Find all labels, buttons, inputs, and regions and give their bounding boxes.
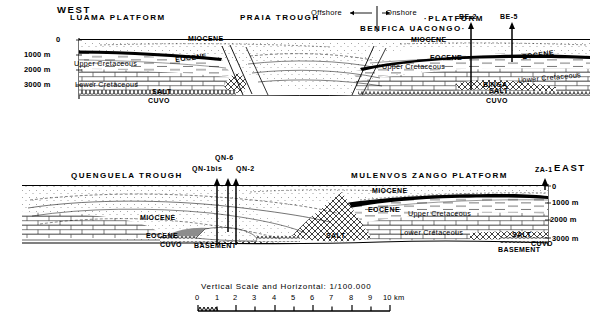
scale-caption: Vertical Scale and Horizontal: 1/100.000 [201,283,371,291]
strat-label-upper-cretaceous-west: Upper Cretaceous [74,60,137,67]
strat-label-upper-cretaceous-east: Upper Cretaceous [382,63,445,70]
bottom-depth-tick-3000: 3000 m [552,235,579,243]
feature-quenguela-trough: QUENGUELA TROUGH [71,172,183,180]
scale-tick-6: 6 [310,294,314,302]
top-depth-tick-3000: 3000 m [24,81,51,89]
well-label-qn-1bis: QN-1bis [192,165,222,172]
strat-label-basement-east: BASEMENT [498,246,540,253]
strat-label-lower-cretaceous-bottom: Lower Cretaceous [400,229,463,236]
strat-label-salt-bottom-east: SALT [512,231,531,238]
cross-section-canvas [0,0,590,318]
scale-tick-8: 8 [349,294,353,302]
strat-label-upper-cretaceous-bottom: Upper Cretaceous [408,210,471,217]
scale-end-label: 10 km [383,294,404,302]
well-label-qn-6: QN-6 [215,154,234,161]
strat-label-miocene-east: MIOCENE [411,36,446,43]
geologic-cross-section-figure: WEST EAST Offshore Onshore LUAMA PLATFOR… [0,0,590,318]
scale-tick-0: 0 [195,294,199,302]
strat-label-basement-west: BASEMENT [194,242,236,249]
orientation-east: EAST [554,163,586,173]
scale-tick-7: 7 [329,294,333,302]
strat-label-cuvo-west: CUVO [148,97,170,104]
strat-label-salt-west: SALT [152,88,171,95]
strat-label-salt-bottom-center: SALT [326,232,345,239]
bottom-depth-tick-2000: 2000 m [550,216,577,224]
bottom-depth-tick-0: 0 [552,183,556,191]
well-label-za-1: ZA-1 [535,166,553,173]
top-depth-tick-0: 0 [56,36,60,44]
strat-label-eocene-mid: EOCENE [430,54,462,61]
scale-tick-5: 5 [291,294,295,302]
strat-label-lower-cretaceous-west: Lower Cretaceous [75,81,138,88]
bottom-depth-tick-1000: 1000 m [552,199,579,207]
well-label-qn-2: QN-2 [236,165,255,172]
strat-label-miocene-bottom-east: MIOCENE [372,187,407,194]
scale-tick-1: 1 [215,294,219,302]
onshore-label: Onshore [386,9,417,17]
feature-luama-platform: LUAMA PLATFORM [70,14,166,22]
well-label-be-5: BE-5 [500,13,518,20]
strat-label-eocene-bottom-east: EOCENE [368,206,400,213]
top-depth-tick-2000: 2000 m [24,66,51,74]
well-label-be-2: BE-2 [459,13,477,20]
bottom-cross-section [22,184,551,246]
strat-label-cuvo-bottom-west: CUVO [160,241,182,248]
top-depth-tick-1000: 1000 m [24,51,51,59]
scale-tick-2: 2 [233,294,237,302]
strat-label-miocene-west: MIOCENE [188,35,223,42]
strat-label-cuvo-east: CUVO [486,97,508,104]
scale-tick-3: 3 [252,294,256,302]
feature-benfica-uacongo: BENFICA UACONGO· [360,25,466,33]
strat-label-salt-east: SALT [489,87,508,94]
feature-mulenvos-zango-platform: MULENVOS ZANGO PLATFORM [351,172,508,180]
strat-label-eocene-bottom-west: EOCENE [146,232,178,239]
strat-label-miocene-bottom-west: MIOCENE [140,214,175,221]
scale-tick-4: 4 [272,294,276,302]
scale-tick-9: 9 [368,294,372,302]
feature-praia-trough: PRAIA TROUGH [240,14,319,22]
scale-bar-graphic [198,305,390,311]
